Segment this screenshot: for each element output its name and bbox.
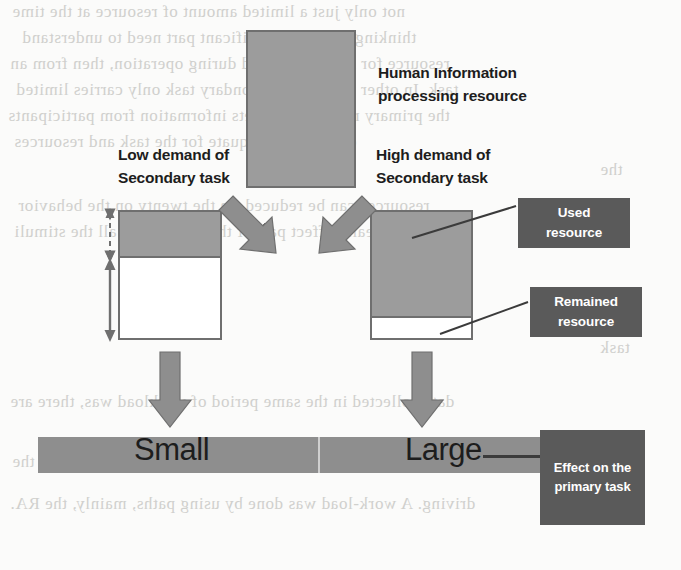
effect-on-primary-task-line2: primary task (554, 478, 630, 497)
high-demand-used-resource (370, 210, 473, 318)
figure-page: not only just a limited amount of resour… (0, 0, 681, 570)
effect-large-label: Large (405, 432, 482, 468)
high-demand-label-line2: Secondary task (376, 168, 488, 188)
low-demand-label-line1: Low demand of (118, 145, 229, 165)
background-text-line: resources can be reduced. In the twenty … (18, 196, 430, 216)
background-text-line: the (600, 160, 623, 180)
high-demand-label-line1: High demand of (376, 145, 490, 165)
background-text-line: task (600, 338, 630, 358)
background-text-line: the primary resource and gets informatio… (8, 106, 450, 126)
effect-on-primary-task-box: Effect on the primary task (540, 430, 645, 525)
remained-resource-legend-line2: resource (558, 312, 614, 332)
resource-box-label-line1: Human Information (378, 63, 517, 83)
low-demand-label-line2: Secondary task (118, 168, 230, 188)
used-resource-measure-arrow (106, 208, 115, 262)
arrow-high-demand-to-outcome (401, 352, 443, 427)
background-text-line: data collected in the same period of wor… (10, 392, 454, 412)
effect-on-primary-task-line1: Effect on the (554, 459, 631, 478)
human-information-processing-resource-box (246, 30, 356, 188)
outcome-leader-line (483, 455, 543, 458)
background-text-line: thinking, so that a significant part nee… (22, 28, 416, 48)
effect-small-label: Small (134, 432, 209, 468)
remained-resource-legend-line1: Remained (554, 292, 618, 312)
background-text-line: driving. A work-load was done by using p… (10, 494, 475, 514)
remained-resource-measure-arrow (105, 258, 116, 342)
low-demand-used-resource (118, 210, 222, 258)
background-text-line: not only just a limited amount of resour… (12, 2, 405, 22)
used-resource-legend-line1: Used (558, 203, 591, 223)
arrow-low-demand-to-outcome (149, 352, 191, 427)
remained-resource-legend: Remained resource (530, 287, 642, 337)
used-resource-legend-line2: resource (546, 223, 602, 243)
effect-bar-divider (318, 437, 320, 473)
arrow-to-high-demand (319, 196, 376, 253)
resource-box-label-line2: processing resource (378, 86, 527, 106)
arrow-to-low-demand (219, 196, 276, 253)
used-resource-legend: Used resource (518, 198, 630, 248)
